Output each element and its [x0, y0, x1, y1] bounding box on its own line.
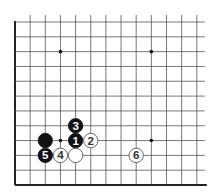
move-number: 5: [42, 149, 49, 161]
white-stone-4: 4: [53, 148, 67, 162]
white-stone-2: 2: [84, 133, 98, 147]
white-stone-icon: [68, 148, 82, 162]
move-number: 3: [72, 120, 78, 132]
star-point-icon: [150, 139, 154, 143]
black-stone-3: 3: [68, 119, 82, 133]
black-stone-1: 1: [68, 133, 82, 147]
move-number: 2: [88, 135, 94, 147]
black-stone-5: 5: [38, 148, 52, 162]
black-stone-icon: [38, 133, 52, 147]
star-point-icon: [150, 50, 154, 54]
star-point-icon: [59, 139, 63, 143]
black-stone: [38, 133, 52, 147]
star-point-icon: [59, 50, 63, 54]
move-number: 4: [57, 149, 64, 161]
go-board-diagram: 123456: [0, 0, 218, 195]
white-stone: [68, 148, 82, 162]
move-number: 1: [72, 135, 79, 147]
move-number: 6: [133, 149, 139, 161]
white-stone-6: 6: [129, 148, 143, 162]
